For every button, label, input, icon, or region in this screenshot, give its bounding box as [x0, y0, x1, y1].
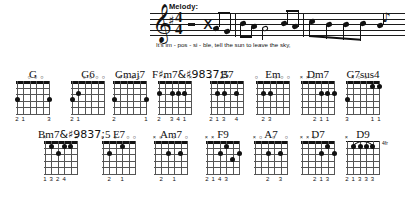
- finger-number: 1: [216, 115, 219, 123]
- string-line: [302, 141, 303, 174]
- fret-line: [44, 154, 78, 155]
- string-line: [217, 81, 218, 114]
- staff-line: [150, 35, 405, 36]
- fretboard-grid: ××: [158, 81, 192, 114]
- string-line: [239, 141, 240, 174]
- finger-number: 2: [313, 175, 316, 183]
- string-markers: ×○: [210, 75, 244, 81]
- note-stem: [230, 13, 231, 30]
- fretboard-grid: ×○○○: [154, 141, 188, 174]
- string-line: [185, 81, 186, 114]
- finger-number: 1: [371, 115, 374, 123]
- finger-dot: [325, 144, 330, 149]
- string-line: [140, 81, 141, 114]
- nut: [71, 81, 105, 84]
- open-string-icon: ○: [172, 135, 175, 141]
- time-signature-denominator: 4: [175, 23, 183, 36]
- fret-line: [346, 154, 380, 155]
- string-line: [120, 81, 121, 114]
- string-line: [315, 81, 316, 114]
- open-string-icon: ○: [125, 75, 128, 81]
- muted-string-icon: ×: [209, 75, 212, 81]
- nut: [301, 141, 335, 144]
- fret-line: [113, 94, 147, 95]
- fretboard-grid: ××: [44, 141, 78, 174]
- fret-line: [346, 107, 380, 108]
- chord-diagram-d9: D9×4fr21333: [340, 128, 386, 183]
- finger-dot: [107, 151, 112, 156]
- fret-line: [113, 107, 147, 108]
- fret-line: [158, 107, 192, 108]
- finger-dot: [157, 91, 162, 96]
- finger-dot: [15, 97, 20, 102]
- fret-line: [16, 94, 50, 95]
- beam: [240, 36, 252, 38]
- fretboard-grid: ×○: [210, 81, 244, 114]
- finger-dot: [325, 91, 330, 96]
- string-line: [172, 81, 173, 114]
- open-string-icon: ○: [137, 75, 140, 81]
- string-line: [30, 81, 31, 114]
- string-markers: ×○○○: [254, 135, 288, 141]
- string-line: [230, 81, 231, 114]
- fret-line: [346, 167, 380, 168]
- finger-numbers: 21: [113, 115, 147, 123]
- nut: [254, 141, 288, 144]
- lyrics-line: It's im - pos - si - ble, tell the sun t…: [156, 41, 405, 48]
- fret-line: [102, 148, 136, 149]
- open-string-icon: ○: [95, 75, 98, 81]
- fret-line: [346, 88, 380, 89]
- fret-line: [44, 167, 78, 168]
- string-line: [211, 81, 212, 114]
- finger-dot: [230, 157, 235, 162]
- finger-number: 3: [279, 175, 282, 183]
- finger-number: 1: [120, 175, 123, 183]
- finger-number: 4: [235, 115, 238, 123]
- finger-numbers: 21: [154, 175, 188, 183]
- fret-line: [346, 94, 380, 95]
- finger-number: 1: [172, 175, 175, 183]
- muted-string-icon: ×: [163, 75, 166, 81]
- string-line: [159, 81, 160, 114]
- muted-string-icon: ×: [300, 75, 303, 81]
- finger-number: 2: [205, 175, 208, 183]
- fret-line: [154, 161, 188, 162]
- fretboard-grid: ×○○○: [254, 141, 288, 174]
- finger-number: 3: [170, 115, 173, 123]
- string-line: [43, 81, 44, 114]
- fret-line: [210, 88, 244, 89]
- chord-diagram-section: G○○○213G6○○○○21Gmaj7×○○○21F♯m7&♯9837;5××…: [0, 68, 405, 188]
- finger-dot: [215, 91, 220, 96]
- string-line: [165, 81, 166, 114]
- beam: [218, 12, 230, 14]
- muted-string-icon: ×: [153, 135, 156, 141]
- string-line: [168, 141, 169, 174]
- string-line: [274, 141, 275, 174]
- finger-dot: [49, 144, 54, 149]
- fret-line: [206, 167, 240, 168]
- finger-number: 1: [22, 115, 25, 123]
- open-string-icon: ○: [285, 135, 288, 141]
- string-line: [91, 81, 92, 114]
- finger-dot: [261, 91, 266, 96]
- open-string-icon: ○: [102, 75, 105, 81]
- fret-line: [16, 101, 50, 102]
- open-string-icon: ○: [159, 135, 162, 141]
- quarter-rest-icon: x: [203, 15, 213, 32]
- string-line: [287, 141, 288, 174]
- finger-numbers: 23: [254, 175, 288, 183]
- fret-line: [254, 167, 288, 168]
- barline: [303, 13, 304, 37]
- muted-string-icon: ×: [253, 135, 256, 141]
- finger-number: 1: [377, 115, 380, 123]
- staff-line: [150, 30, 405, 31]
- string-line: [135, 141, 136, 174]
- nut: [346, 81, 380, 84]
- fret-line: [254, 148, 288, 149]
- muted-string-icon: ×: [205, 135, 208, 141]
- open-string-icon: ○: [313, 135, 316, 141]
- finger-number: 4: [176, 115, 179, 123]
- chord-row: G○○○213G6○○○○21Gmaj7×○○○21F♯m7&♯9837;5××…: [0, 68, 405, 128]
- muted-string-icon: ×: [300, 135, 303, 141]
- finger-number: 3: [47, 115, 50, 123]
